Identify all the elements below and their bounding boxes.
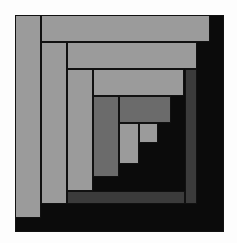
center-column xyxy=(119,123,139,164)
quilt-canvas xyxy=(0,0,237,243)
right-dark-strip xyxy=(185,69,197,204)
center-square xyxy=(139,123,158,143)
top-bar-4 xyxy=(119,96,171,123)
left-column-1 xyxy=(15,15,41,218)
bottom-dark-strip xyxy=(67,191,185,204)
top-bar-1 xyxy=(41,15,210,42)
left-column-2 xyxy=(41,42,67,204)
top-bar-3 xyxy=(93,69,184,96)
top-bar-2 xyxy=(67,42,197,69)
left-column-4 xyxy=(93,96,119,177)
left-column-3 xyxy=(67,69,93,191)
